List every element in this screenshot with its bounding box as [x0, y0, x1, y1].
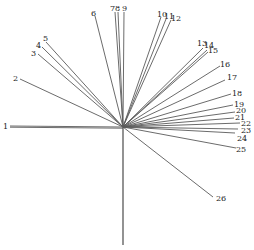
ray-label-24: 24	[237, 134, 247, 143]
ray-label-18: 18	[232, 89, 242, 98]
ray-label-26: 26	[216, 194, 226, 203]
ray-line-26	[123, 127, 213, 197]
ray-label-16: 16	[220, 60, 230, 69]
ray-label-8: 8	[115, 4, 120, 13]
radial-vector-diagram: 1234567891011121314151617181920212223242…	[0, 0, 254, 250]
ray-line-4	[42, 47, 123, 127]
ray-label-17: 17	[227, 73, 237, 82]
ray-label-3: 3	[31, 49, 36, 58]
ray-line-9	[123, 12, 124, 127]
ray-line-12	[123, 20, 171, 127]
ray-label-4: 4	[36, 41, 41, 50]
ray-label-12: 12	[171, 14, 181, 23]
ray-label-15: 15	[208, 46, 218, 55]
labels-group: 1234567891011121314151617181920212223242…	[3, 4, 251, 203]
ray-label-2: 2	[13, 74, 18, 83]
ray-line-2	[20, 79, 123, 127]
ray-line-5	[46, 42, 123, 127]
ray-line-1	[10, 126, 123, 127]
ray-line-1-double	[10, 127, 123, 128]
ray-label-5: 5	[43, 34, 48, 43]
ray-label-1: 1	[3, 122, 8, 131]
ray-line-16	[123, 66, 220, 127]
ray-label-9: 9	[122, 4, 127, 13]
ray-label-6: 6	[91, 9, 96, 18]
ray-line-11	[123, 19, 166, 127]
ray-line-3	[38, 54, 123, 127]
ray-label-25: 25	[236, 145, 246, 154]
